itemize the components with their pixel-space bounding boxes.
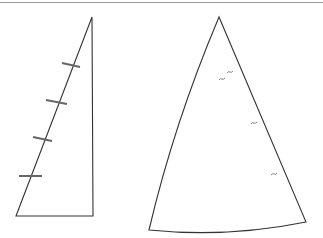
batten-pocket (46, 100, 67, 104)
right-sail-outline (149, 17, 306, 233)
sail-diagram (0, 0, 323, 238)
batten-pocket (33, 137, 52, 141)
right-sail (149, 17, 306, 233)
batten-pocket (62, 63, 80, 67)
seam-mark (227, 71, 233, 73)
left-sail (16, 17, 93, 216)
seam-mark (271, 173, 277, 175)
seam-mark (219, 78, 225, 80)
batten-pockets (19, 63, 80, 176)
seam-mark (251, 122, 257, 124)
left-sail-outline (16, 17, 93, 216)
